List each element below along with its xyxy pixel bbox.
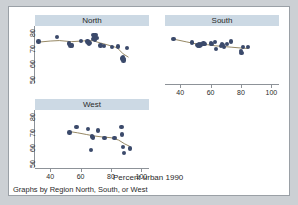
data-point [74,125,78,129]
graph-note: Graphs by Region North, South, or West [13,185,148,194]
x-tick [241,85,242,88]
y-tick-label: 60 [29,145,36,153]
data-point [128,146,132,150]
y-tick-label: 70 [29,129,36,137]
x-tick-label: 60 [75,173,87,180]
x-tick-label: 100 [265,89,277,96]
x-tick [180,85,181,88]
data-point [229,39,233,43]
data-point [70,43,74,47]
x-tick [271,85,272,88]
graph-figure: North South West 50607080406080100506070… [8,6,290,196]
data-point [96,128,100,132]
x-tick-label: 40 [174,89,186,96]
data-point [36,39,40,43]
panel-north-plot [35,26,149,83]
y-tick-label: 60 [29,61,36,69]
data-point [116,44,120,48]
x-tick-label: 60 [205,89,217,96]
x-axis-line [165,84,279,85]
panel-south: South [165,15,279,83]
data-point [202,42,206,46]
data-point [239,51,243,55]
y-tick-label: 80 [29,113,36,121]
panel-north-title: North [35,15,149,26]
x-tick-label: 40 [44,173,56,180]
data-point [91,135,95,139]
data-point [171,37,175,41]
x-axis-caption: Percent urban 1990 [113,173,183,182]
x-tick-label: 80 [235,89,247,96]
y-tick-label: 70 [29,45,36,53]
panel-south-title: South [165,15,279,26]
panel-west-title: West [35,99,149,110]
x-axis-line [35,168,149,169]
data-point [119,125,123,129]
y-tick-label: 50 [29,76,36,84]
x-tick [141,169,142,172]
panel-west-plot [35,110,149,167]
x-tick [211,85,212,88]
x-tick [111,169,112,172]
data-point [94,36,98,40]
panel-south-plot [165,26,279,83]
data-point [102,136,106,140]
trend-line [165,26,279,83]
panel-west: West [35,99,149,167]
data-point [120,132,124,136]
data-point [67,130,71,134]
panel-north: North [35,15,149,83]
data-point [190,40,194,44]
x-tick [50,169,51,172]
data-point [112,136,116,140]
y-tick-label: 80 [29,29,36,37]
x-tick [81,169,82,172]
